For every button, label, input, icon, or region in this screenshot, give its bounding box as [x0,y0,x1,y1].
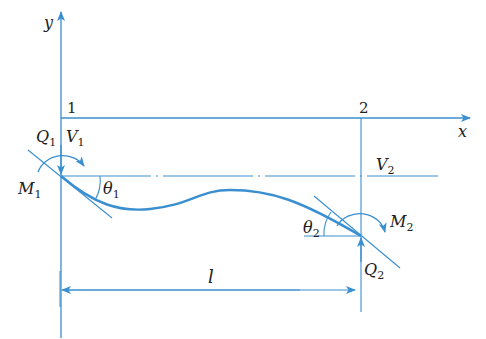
theta1-arc [95,176,100,200]
node-2-label: 2 [359,99,369,117]
theta1-label: θ1 [103,179,120,201]
beam-diagram: y x 1 2 Q1 V1 M1 θ1 V2 θ2 M2 Q2 l [0,0,486,339]
m1-label: M1 [17,179,41,201]
q2-label: Q2 [364,260,384,282]
node-1-label: 1 [67,99,77,117]
m2-label: M2 [389,212,413,234]
v1-label: V1 [66,127,85,149]
v2-label: V2 [376,155,395,177]
tangent-line-2 [314,196,400,268]
length-label: l [208,266,214,287]
y-axis-label: y [43,13,54,32]
tangent-line-1 [28,150,112,218]
x-axis-label: x [458,122,467,141]
theta2-label: θ2 [303,218,320,240]
q1-label: Q1 [36,127,56,149]
